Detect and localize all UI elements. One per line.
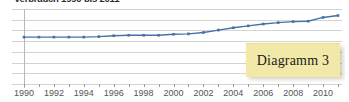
x-axis-tick: [263, 84, 264, 87]
x-axis-tick: [24, 84, 25, 87]
data-point-marker: [247, 25, 250, 28]
data-point-marker: [262, 23, 265, 26]
x-axis-label: 2006: [253, 88, 273, 98]
series-polyline: [24, 16, 338, 38]
x-axis-tick: [159, 84, 160, 87]
data-point-marker: [217, 29, 220, 32]
x-axis-label: 2008: [283, 88, 303, 98]
data-point-marker: [68, 36, 71, 39]
x-axis-tick: [203, 84, 204, 87]
x-axis-tick: [323, 84, 324, 87]
x-axis-tick: [54, 84, 55, 87]
x-axis-tick: [39, 84, 40, 87]
data-point-marker: [97, 35, 100, 38]
x-axis-label: 2010: [313, 88, 333, 98]
x-axis-tick: [69, 84, 70, 87]
data-point-marker: [142, 34, 145, 37]
data-point-marker: [83, 36, 86, 39]
x-axis-tick: [293, 84, 294, 87]
x-axis-tick: [129, 84, 130, 87]
x-axis-tick: [174, 84, 175, 87]
data-point-marker: [232, 26, 235, 29]
x-axis-label: 2002: [193, 88, 213, 98]
x-axis-tick: [188, 84, 189, 87]
x-axis-label: 1998: [134, 88, 154, 98]
x-axis-tick: [99, 84, 100, 87]
callout-label: Diagramm 3: [257, 53, 329, 69]
data-point-marker: [23, 36, 26, 39]
x-axis-tick: [233, 84, 234, 87]
x-axis-tick: [114, 84, 115, 87]
data-point-marker: [322, 16, 325, 19]
callout-box[interactable]: Diagramm 3: [246, 43, 340, 77]
x-axis-label: 1994: [74, 88, 94, 98]
x-axis-label: 2000: [164, 88, 184, 98]
x-axis-label: 1996: [104, 88, 124, 98]
data-point-marker: [277, 21, 280, 24]
x-axis-tick: [144, 84, 145, 87]
x-axis-tick: [308, 84, 309, 87]
chart-screenshot: Verbrauch 1990 bis 2011 1990199219941996…: [0, 0, 349, 102]
data-point-marker: [202, 31, 205, 34]
data-point-marker: [127, 34, 130, 37]
x-axis-tick: [338, 84, 339, 87]
data-point-marker: [292, 20, 295, 23]
x-axis-labels: 1990199219941996199820002002200420062008…: [0, 88, 349, 102]
x-axis-tick: [248, 84, 249, 87]
data-point-marker: [38, 36, 41, 39]
data-point-marker: [307, 20, 310, 23]
data-point-marker: [187, 33, 190, 36]
data-point-marker: [172, 33, 175, 36]
x-axis-tick: [278, 84, 279, 87]
x-axis-label: 2004: [223, 88, 243, 98]
data-point-marker: [157, 34, 160, 37]
data-point-marker: [53, 36, 56, 39]
x-axis-label: 1990: [14, 88, 34, 98]
x-axis-tick: [84, 84, 85, 87]
x-axis-label: 1992: [44, 88, 64, 98]
data-point-marker: [337, 14, 340, 17]
x-axis-tick: [218, 84, 219, 87]
data-point-marker: [112, 34, 115, 37]
